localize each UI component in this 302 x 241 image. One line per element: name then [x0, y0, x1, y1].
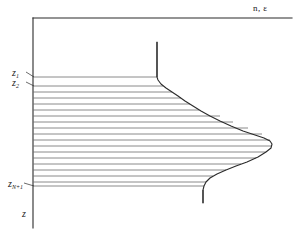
- profile-plot: [0, 0, 302, 241]
- top-axis-label: n, ε: [253, 3, 267, 13]
- slab-lines-group: [33, 77, 271, 186]
- tick-label-zn1: zN+1: [8, 178, 23, 189]
- axes-group: [33, 18, 292, 228]
- profile-curve-group: [157, 42, 272, 203]
- tick-label-zn1-subscript: N+1: [12, 184, 23, 190]
- profile-curve: [157, 42, 272, 203]
- tick-label-z2: z2: [12, 77, 19, 88]
- depth-axis-label: z: [22, 208, 26, 219]
- figure-canvas: n, ε z1 z2 zN+1 z: [0, 0, 302, 241]
- tick-label-z2-subscript: 2: [16, 83, 19, 89]
